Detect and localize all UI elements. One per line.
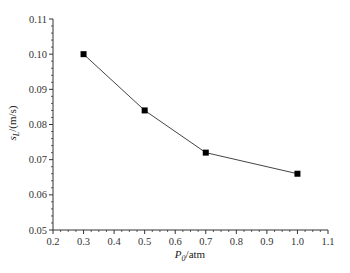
data-point-square-marker bbox=[203, 150, 209, 156]
x-tick-label: 0.4 bbox=[108, 236, 122, 247]
x-tick-label: 0.3 bbox=[77, 236, 90, 247]
x-tick-label: 0.5 bbox=[138, 236, 151, 247]
x-tick-label: 0.6 bbox=[169, 236, 182, 247]
x-tick-label: 1.1 bbox=[321, 236, 334, 247]
data-series bbox=[81, 51, 301, 177]
y-axis-ticks: 0.050.060.070.080.090.100.11 bbox=[29, 14, 53, 236]
axes bbox=[53, 19, 328, 230]
y-axis-title: sL/(m/s) bbox=[6, 105, 21, 140]
y-tick-label: 0.07 bbox=[29, 154, 47, 165]
x-tick-label: 0.8 bbox=[230, 236, 243, 247]
y-tick-label: 0.09 bbox=[29, 84, 47, 95]
data-point-square-marker bbox=[81, 51, 87, 57]
data-point-square-marker bbox=[294, 171, 300, 177]
x-axis-title: P0/atm bbox=[174, 248, 206, 263]
x-tick-label: 0.9 bbox=[260, 236, 273, 247]
series-line bbox=[84, 54, 298, 174]
y-tick-label: 0.06 bbox=[29, 189, 47, 200]
x-axis-ticks: 0.20.30.40.50.60.70.80.91.01.1 bbox=[46, 230, 334, 247]
y-tick-label: 0.11 bbox=[29, 14, 47, 25]
x-tick-label: 0.2 bbox=[46, 236, 59, 247]
line-chart: 0.050.060.070.080.090.100.11 0.20.30.40.… bbox=[0, 0, 350, 273]
y-tick-label: 0.05 bbox=[29, 225, 47, 236]
x-tick-label: 1.0 bbox=[291, 236, 304, 247]
data-point-square-marker bbox=[142, 107, 148, 113]
y-tick-label: 0.10 bbox=[29, 49, 47, 60]
y-tick-label: 0.08 bbox=[29, 119, 47, 130]
x-tick-label: 0.7 bbox=[199, 236, 212, 247]
figure-caption-cutoff bbox=[40, 262, 340, 273]
